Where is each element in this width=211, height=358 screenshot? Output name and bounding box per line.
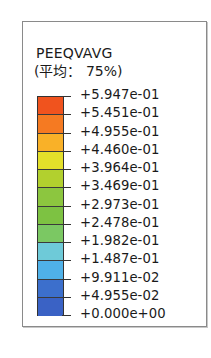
colorbar-tick-label: +9.911e-02 — [80, 271, 159, 285]
colorbar-band — [38, 280, 63, 298]
colorbar-tick-label: +4.955e-01 — [80, 125, 159, 139]
colorbar-tick-label: +3.469e-01 — [80, 179, 159, 193]
colorbar-tick — [62, 260, 71, 261]
colorbar-tick-label: +2.973e-01 — [80, 198, 159, 212]
colorbar-tick-label: +5.947e-01 — [80, 88, 159, 102]
colorbar-tick-label: +4.955e-02 — [80, 289, 159, 303]
legend-subtitle: (平均： 75%) — [34, 63, 123, 79]
colorbar-band — [38, 170, 63, 188]
colorbar-tick — [62, 206, 71, 207]
colorbar-tick — [62, 279, 71, 280]
colorbar-tick — [62, 315, 71, 316]
colorbar-band — [38, 115, 63, 133]
colorbar-band — [38, 97, 63, 115]
colorbar — [37, 96, 64, 316]
colorbar-band — [38, 261, 63, 279]
colorbar-tick-label: +1.982e-01 — [80, 234, 159, 248]
colorbar-tick — [62, 297, 71, 298]
colorbar-band — [38, 134, 63, 152]
colorbar-tick-label: +1.487e-01 — [80, 252, 159, 266]
colorbar-tick-label: +4.460e-01 — [80, 143, 159, 157]
colorbar-band — [38, 188, 63, 206]
colorbar-tick — [62, 187, 71, 188]
colorbar-band — [38, 298, 63, 316]
colorbar-band — [38, 152, 63, 170]
colorbar-tick-label: +0.000e+00 — [80, 307, 166, 321]
colorbar-band — [38, 207, 63, 225]
colorbar-tick-label: +2.478e-01 — [80, 216, 159, 230]
colorbar-tick-label: +3.964e-01 — [80, 161, 159, 175]
colorbar-tick — [62, 114, 71, 115]
colorbar-tick — [62, 242, 71, 243]
colorbar-tick — [62, 169, 71, 170]
colorbar-tick-label: +5.451e-01 — [80, 106, 159, 120]
colorbar-band — [38, 225, 63, 243]
colorbar-tick — [62, 224, 71, 225]
legend-title: PEEQVAVG — [36, 45, 113, 61]
colorbar-tick — [62, 96, 71, 97]
colorbar-tick — [62, 151, 71, 152]
colorbar-tick — [62, 133, 71, 134]
colorbar-band — [38, 243, 63, 261]
